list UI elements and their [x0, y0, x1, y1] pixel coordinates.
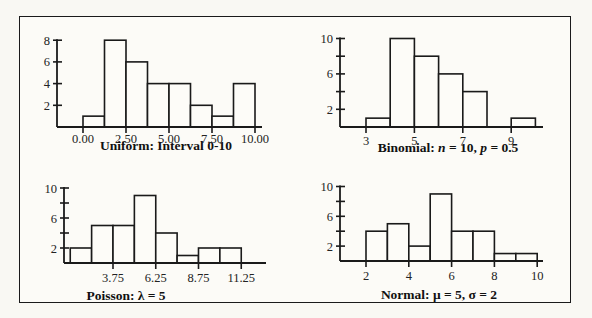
histogram-bar: [177, 256, 198, 264]
histogram-bar: [105, 40, 127, 127]
y-tick-label: 4: [44, 77, 51, 91]
y-tick-label: 6: [327, 210, 333, 224]
histogram-bar: [494, 254, 515, 261]
histogram-bar: [414, 56, 438, 127]
histogram-bar: [452, 231, 473, 261]
histogram-bar: [409, 246, 430, 261]
histogram-bar: [70, 248, 91, 263]
x-tick-label: 3: [363, 134, 369, 148]
x-tick-label: 10: [531, 269, 544, 283]
histogram-bar: [169, 84, 191, 127]
y-tick-label: 10: [321, 180, 334, 194]
chart-title: Uniform: Interval 0-10: [100, 138, 232, 153]
y-tick-label: 6: [44, 55, 50, 69]
histogram-bar: [516, 254, 537, 261]
y-tick-label: 6: [327, 67, 333, 81]
x-tick-label: 6.25: [145, 271, 167, 285]
histogram-bar: [220, 248, 241, 263]
histogram-bar: [83, 116, 105, 127]
histogram-bar: [92, 226, 113, 264]
x-tick-label: 2: [363, 269, 369, 283]
histogram-normal: 2610246810Normal: μ = 5, σ = 2: [321, 180, 544, 302]
chart-title: Binomial: n = 10, p = 0.5: [378, 140, 519, 155]
histogram-bar: [366, 231, 387, 261]
y-tick-label: 6: [51, 212, 57, 226]
y-tick-label: 10: [321, 32, 334, 46]
histogram-bar: [113, 226, 134, 264]
y-tick-label: 2: [51, 242, 57, 256]
histogram-bar: [148, 84, 170, 127]
chart-title: Normal: μ = 5, σ = 2: [381, 287, 497, 302]
y-tick-label: 2: [327, 103, 333, 117]
histogram-bar: [191, 105, 213, 127]
histogram-bar: [199, 248, 220, 263]
histogram-bar: [430, 194, 451, 261]
histogram-bar: [366, 118, 390, 127]
histogram-binomial: 26103579Binomial: n = 10, p = 0.5: [321, 32, 544, 155]
x-tick-label: 3.75: [102, 271, 124, 285]
histogram-uniform: 24680.002.505.007.5010.00Uniform: Interv…: [44, 34, 269, 153]
y-tick-label: 10: [45, 182, 58, 196]
histogram-bar: [463, 92, 487, 127]
x-tick-label: 6: [448, 269, 454, 283]
y-tick-label: 8: [44, 34, 50, 48]
histogram-bar: [387, 224, 408, 261]
histogram-poisson: 26103.756.258.7511.25Poisson: λ = 5: [45, 182, 267, 304]
histogram-bar: [511, 118, 535, 127]
chart-title: Poisson: λ = 5: [86, 288, 165, 303]
x-tick-label: 8: [491, 269, 497, 283]
histogram-bar: [212, 116, 234, 127]
histogram-bar: [473, 231, 494, 261]
x-tick-label: 11.25: [227, 271, 255, 285]
histogram-bar: [126, 62, 148, 127]
y-tick-label: 2: [327, 240, 333, 254]
x-tick-label: 10.00: [241, 132, 269, 146]
x-tick-label: 0.00: [72, 132, 94, 146]
x-tick-label: 4: [406, 269, 413, 283]
histogram-bar: [390, 39, 414, 128]
x-tick-label: 8.75: [188, 271, 210, 285]
histogram-bar: [439, 74, 463, 127]
histogram-bar: [156, 233, 177, 263]
histogram-panel: 24680.002.505.007.5010.00Uniform: Interv…: [0, 0, 592, 318]
y-tick-label: 2: [44, 99, 50, 113]
histogram-bar: [234, 84, 256, 127]
histogram-bar: [134, 196, 155, 264]
